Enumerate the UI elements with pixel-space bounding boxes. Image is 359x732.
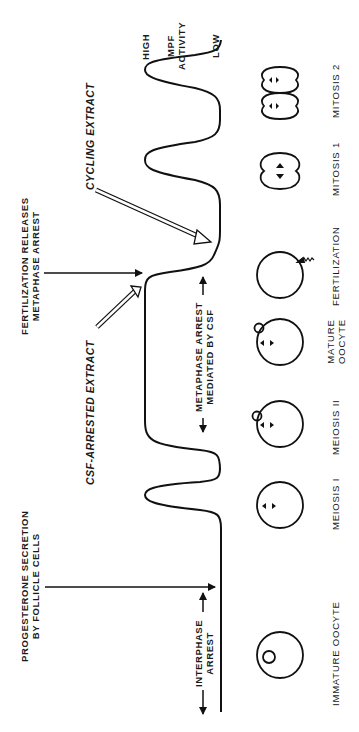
- axis-low-label: LOW: [210, 34, 221, 58]
- stage-label-mitosis-2: MITOSIS 2: [330, 64, 341, 118]
- cell-fertilization: [257, 252, 314, 298]
- metaphase-arrest-label: METAPHASE ARRESTMEDIATED BY CSF: [193, 302, 215, 412]
- stage-label-mature-oocyte: MATUREOOCYTE: [325, 319, 347, 364]
- axis-high-label: HIGH: [140, 34, 151, 60]
- stage-label-fertilization: FERTILIZATION: [330, 226, 341, 306]
- csf-extract-arrow: [97, 286, 141, 327]
- stage-label-meiosis-2: MEIOSIS II: [330, 399, 341, 455]
- cell-meiosis-1: [257, 482, 303, 528]
- progesterone-event-label: PROGESTERONE SECRETIONBY FOLLICLE CELLS: [19, 511, 41, 663]
- cell-meiosis-2: [253, 401, 304, 447]
- cycling-extract-arrow: [96, 190, 211, 244]
- stage-label-mitosis-1: MITOSIS 1: [330, 142, 341, 196]
- fertilization-event-label: FERTILIZATION RELEASESMETAPHASE ARREST: [19, 197, 41, 335]
- cycling-extract-label: CYCLING EXTRACT: [85, 83, 96, 190]
- stage-label-immature-oocyte: IMMATURE OOCYTE: [330, 601, 341, 706]
- stage-label-meiosis-1: MEIOSIS I: [330, 478, 341, 530]
- cell-mature-oocyte: [255, 319, 304, 365]
- axis-title-label: MPFACTIVITY: [165, 22, 187, 70]
- csf-extract-label: CSF-ARRESTED EXTRACT: [85, 340, 96, 485]
- mpf-diagram: [0, 0, 359, 732]
- interphase-arrest-label: INTERPHASEARREST: [193, 620, 215, 687]
- cell-mitosis-1: [261, 153, 300, 189]
- cell-mitosis-2: [262, 67, 298, 119]
- cell-immature-oocyte: [257, 632, 303, 678]
